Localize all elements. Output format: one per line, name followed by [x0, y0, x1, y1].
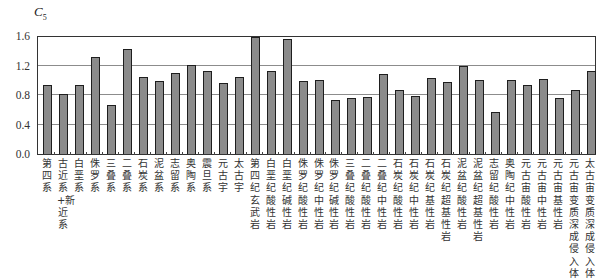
- x-tick-mark: [118, 152, 119, 155]
- bar: [331, 100, 340, 154]
- x-tick-mark: [246, 152, 247, 155]
- x-tick-label: 三叠纪酸性岩: [344, 158, 356, 231]
- x-tick-label: 二叠纪酸性岩: [360, 158, 372, 231]
- x-tick-mark: [549, 152, 550, 155]
- bar: [475, 80, 484, 154]
- x-tick-label: 太古宇: [233, 158, 245, 195]
- x-tick-mark: [325, 152, 326, 155]
- x-tick-label: 太古宙变质深成侵入体: [584, 158, 596, 280]
- x-tick-label: 侏罗系: [89, 158, 101, 195]
- x-tick-mark: [421, 152, 422, 155]
- x-tick-label: 侏罗纪中性岩: [313, 158, 325, 231]
- bar: [555, 98, 564, 154]
- bar: [251, 37, 260, 154]
- x-tick-label: 侏罗纪碱性岩: [328, 158, 340, 231]
- x-tick-mark: [485, 152, 486, 155]
- x-tick-mark: [533, 152, 534, 155]
- x-tick-mark: [437, 152, 438, 155]
- bar: [59, 94, 68, 154]
- y-axis-label-subscript: 5: [43, 13, 47, 22]
- x-tick-mark: [469, 152, 470, 155]
- bar: [443, 82, 452, 154]
- x-tick-label: 侏罗纪酸性岩: [297, 158, 309, 231]
- x-tick-mark: [150, 152, 151, 155]
- x-tick-mark: [389, 152, 390, 155]
- x-tick-label: 震旦系: [201, 158, 213, 195]
- y-tick-label: 0.8: [0, 89, 30, 101]
- bar: [75, 85, 84, 154]
- bar: [155, 81, 164, 154]
- x-tick-mark: [310, 152, 311, 155]
- bar: [299, 81, 308, 154]
- x-tick-label: 泥盆纪酸性岩: [456, 158, 468, 231]
- bar: [395, 90, 404, 154]
- x-tick-label: 志留纪酸性岩: [488, 158, 500, 231]
- x-tick-mark: [262, 152, 263, 155]
- plot-area: [37, 36, 596, 155]
- x-tick-label: 元古宙基性岩: [552, 158, 564, 231]
- x-tick-mark: [166, 152, 167, 155]
- x-tick-mark: [198, 152, 199, 155]
- x-tick-mark: [501, 152, 502, 155]
- x-tick-mark: [230, 152, 231, 155]
- bar: [523, 85, 532, 154]
- x-tick-label: 石炭纪酸性岩: [392, 158, 404, 231]
- bar: [539, 79, 548, 154]
- bar: [171, 73, 180, 154]
- x-tick-mark: [453, 152, 454, 155]
- bar: [363, 97, 372, 154]
- x-tick-label: 第四纪玄武岩: [249, 158, 261, 231]
- bar: [571, 90, 580, 154]
- x-tick-label: 泥盆系: [153, 158, 165, 195]
- y-axis-label: C5: [34, 4, 47, 22]
- x-tick-mark: [357, 152, 358, 155]
- bar: [315, 80, 324, 154]
- x-tick-mark: [341, 152, 342, 155]
- x-tick-mark: [134, 152, 135, 155]
- bar: [427, 78, 436, 154]
- bar: [347, 98, 356, 154]
- bar: [235, 77, 244, 154]
- bar: [203, 71, 212, 154]
- bar: [491, 112, 500, 154]
- x-tick-label: 白垩纪酸性岩: [265, 158, 277, 231]
- bar: [379, 74, 388, 154]
- x-tick-label: 三叠系: [105, 158, 117, 195]
- x-tick-mark: [54, 152, 55, 155]
- bar: [283, 39, 292, 154]
- x-tick-mark: [373, 152, 374, 155]
- x-tick-mark: [214, 152, 215, 155]
- x-tick-mark: [581, 152, 582, 155]
- x-tick-mark: [70, 152, 71, 155]
- x-tick-label: 石炭纪基性岩: [424, 158, 436, 231]
- x-tick-label: 元古宙酸性岩: [520, 158, 532, 231]
- bar: [411, 96, 420, 154]
- bar: [219, 83, 228, 154]
- bar: [267, 71, 276, 154]
- y-tick-label: 0.4: [0, 119, 30, 131]
- x-tick-label: 奥陶纪中性岩: [504, 158, 516, 231]
- x-tick-mark: [294, 152, 295, 155]
- x-tick-label: 二叠纪中性岩: [376, 158, 388, 231]
- x-tick-mark: [102, 152, 103, 155]
- y-axis-label-main: C: [34, 4, 43, 19]
- bar: [139, 77, 148, 154]
- x-tick-label: 元古宙变质深成侵入体: [568, 158, 580, 280]
- y-tick-label: 1.2: [0, 60, 30, 72]
- x-tick-label: 泥盆纪超基性岩: [472, 158, 484, 243]
- y-tick-label: 1.6: [0, 30, 30, 42]
- gridline: [38, 65, 595, 66]
- x-tick-label: 古近系+新近系: [57, 158, 69, 231]
- x-tick-label: 奥陶系: [185, 158, 197, 195]
- x-tick-label: 二叠系: [121, 158, 133, 195]
- x-tick-mark: [278, 152, 279, 155]
- bar: [91, 57, 100, 154]
- x-tick-label: 白垩纪碱性岩: [281, 158, 293, 231]
- x-tick-mark: [182, 152, 183, 155]
- x-tick-label: 元古宇: [217, 158, 229, 195]
- x-tick-mark: [517, 152, 518, 155]
- bar: [587, 71, 596, 154]
- x-tick-mark: [86, 152, 87, 155]
- x-tick-label: 元古宙中性岩: [536, 158, 548, 231]
